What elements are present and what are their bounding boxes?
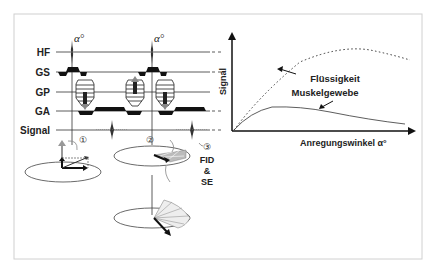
row-label-hf: HF — [37, 47, 50, 58]
pulse-label-1: α° — [74, 32, 85, 44]
annotation-muskelgewebe: Muskelgewebe — [291, 87, 358, 98]
phase-gradients — [76, 76, 174, 110]
marker-3: ③ — [203, 142, 211, 152]
annotation-arrow-fluessigkeit — [280, 69, 296, 74]
y-axis-label: Signal — [218, 68, 228, 95]
pulse-label-2: α° — [154, 32, 165, 44]
row-label-signal: Signal — [20, 125, 50, 136]
figure-frame — [14, 14, 422, 259]
mri-diagram: HF GS GP GA Signal α° α° — [0, 0, 437, 271]
magnetization-diagram-2 — [114, 140, 190, 215]
readout-gradients — [78, 107, 206, 115]
x-axis-label: Anregungswinkel α° — [300, 138, 387, 148]
series-muskelgewebe — [234, 107, 405, 130]
and-label: & — [204, 166, 211, 176]
marker-2: ② — [146, 135, 154, 145]
row-label-ga: GA — [35, 106, 50, 117]
fid-label: FID — [200, 155, 215, 165]
row-label-gs: GS — [36, 67, 51, 78]
magnetization-diagram-1 — [25, 140, 101, 182]
se-label: SE — [201, 177, 213, 187]
row-label-gp: GP — [36, 87, 51, 98]
annotation-arrow-muskelgewebe — [322, 101, 333, 107]
sequence-row-labels: HF GS GP GA Signal — [20, 47, 50, 136]
marker-1: ① — [79, 135, 87, 145]
signal-chart: Signal Anregungswinkel α° Flüssigkeit Mu… — [218, 32, 416, 148]
slice-gradients — [58, 67, 167, 76]
annotation-fluessigkeit: Flüssigkeit — [310, 73, 360, 84]
